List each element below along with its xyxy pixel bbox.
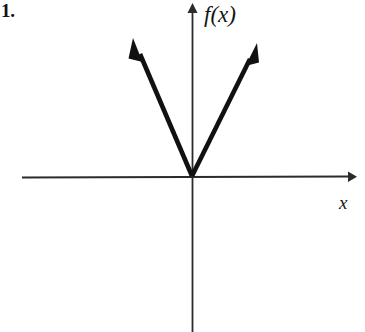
figure-container: 1. f(x) x xyxy=(0,0,365,332)
y-axis-label: f(x) xyxy=(204,1,236,28)
function-curve-group xyxy=(129,38,260,176)
right-ray-arrowhead xyxy=(246,43,260,66)
x-axis-arrowhead xyxy=(348,172,357,183)
left-ray-line xyxy=(140,54,192,176)
y-axis-arrowhead xyxy=(188,3,198,13)
right-ray-line xyxy=(192,59,250,176)
x-axis-line xyxy=(22,177,348,178)
x-axis-label: x xyxy=(339,192,347,214)
left-ray-arrowhead xyxy=(129,38,143,62)
graph-canvas xyxy=(0,0,365,332)
